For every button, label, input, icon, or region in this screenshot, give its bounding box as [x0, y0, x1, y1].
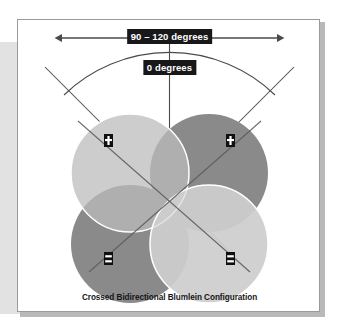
figure-caption: Crossed Bidirectional Blumlein Configura… — [18, 293, 320, 302]
spread-angle-label: 90 – 120 degrees — [127, 29, 213, 44]
zero-degrees-label: 0 degrees — [143, 60, 196, 75]
mic-upper-right — [226, 134, 235, 147]
mic-lower-right — [226, 252, 235, 265]
polar-pattern — [71, 114, 268, 303]
mic-upper-left — [104, 134, 113, 147]
mic-lower-left — [104, 252, 113, 265]
figure-root: 90 – 120 degrees 0 degrees Crossed Bidir… — [0, 0, 342, 334]
diagram-stage: 90 – 120 degrees 0 degrees Crossed Bidir… — [18, 20, 320, 312]
figure-panel: 90 – 120 degrees 0 degrees Crossed Bidir… — [17, 19, 320, 312]
